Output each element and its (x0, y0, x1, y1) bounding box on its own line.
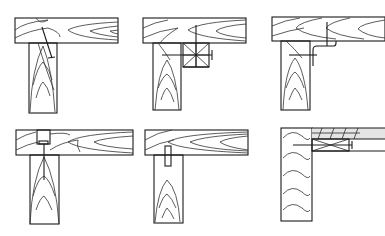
panel-corner-block-bolts (143, 18, 246, 110)
joint-diagram (0, 0, 385, 236)
panel-angle-bracket (272, 17, 385, 110)
panel-recessed-top-screw (16, 130, 133, 224)
panel-side-board-block (281, 128, 385, 221)
panel-diagonal-screw (15, 18, 118, 113)
panel-dowel-tenon (145, 130, 248, 223)
